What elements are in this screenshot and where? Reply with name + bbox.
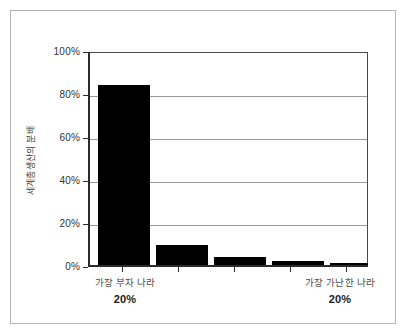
category-label-richest: 가장 부자 나라 20% — [75, 275, 175, 305]
category-label-poorest-pct: 20% — [286, 293, 394, 305]
y-tick-mark-0 — [83, 267, 88, 268]
chart-figure: 세계총생산의 분배 100% 80% 60% 40% 20% 0% 가장 부자 … — [0, 0, 409, 336]
y-axis-title-text: 세계총생산의 분배 — [25, 125, 38, 194]
category-label-poorest-name: 가장 가난한 나라 — [286, 275, 394, 289]
bar-quintile-1 — [98, 85, 150, 265]
category-label-richest-name: 가장 부자 나라 — [75, 275, 175, 289]
bar-quintile-4 — [272, 261, 324, 265]
x-tick-mark-1 — [122, 267, 123, 272]
y-tick-label-40: 40% — [48, 175, 80, 186]
bar-quintile-2 — [156, 245, 208, 265]
plot-area — [88, 52, 368, 267]
y-axis-title: 세계총생산의 분배 — [24, 105, 38, 215]
x-tick-mark-4 — [290, 267, 291, 272]
y-tick-label-60: 60% — [48, 132, 80, 143]
bar-quintile-5 — [330, 263, 368, 265]
y-tick-label-100: 100% — [48, 46, 80, 57]
y-tick-label-80: 80% — [48, 89, 80, 100]
category-label-poorest: 가장 가난한 나라 20% — [286, 275, 394, 305]
x-tick-mark-5 — [346, 267, 347, 272]
bar-quintile-3 — [214, 257, 266, 265]
x-tick-mark-2 — [178, 267, 179, 272]
y-tick-label-20: 20% — [48, 218, 80, 229]
x-tick-mark-3 — [234, 267, 235, 272]
y-tick-label-0: 0% — [48, 261, 80, 272]
category-label-richest-pct: 20% — [75, 293, 175, 305]
